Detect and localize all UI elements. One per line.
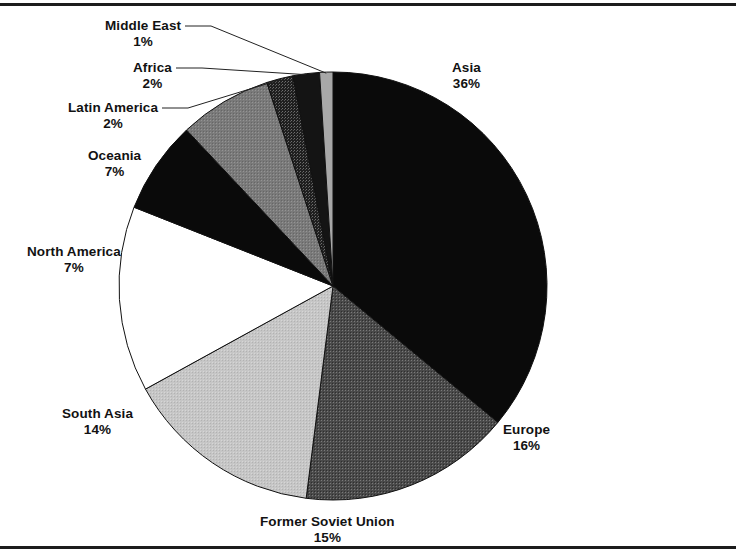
pie-label-percent: 1% [105,34,181,50]
pie-label-name: North America [27,244,121,260]
chart-figure: Asia36%Europe16%Former Soviet Union15%So… [0,0,736,559]
pie-label-name: Africa [133,60,172,76]
pie-label-percent: 7% [88,164,141,180]
pie-label-name: Latin America [68,100,158,116]
pie-label-south-asia: South Asia14% [62,406,133,438]
pie-label-percent: 14% [62,422,133,438]
pie-label-name: Former Soviet Union [260,514,395,530]
pie-label-percent: 36% [452,76,481,92]
pie-label-percent: 2% [68,116,158,132]
pie-label-name: Asia [452,60,481,76]
pie-chart-svg [0,0,736,559]
pie-label-name: Middle East [105,18,181,34]
pie-label-name: Europe [503,422,550,438]
pie-label-latin-america: Latin America2% [68,100,158,132]
leader-line-africa [176,68,306,75]
pie-label-north-america: North America7% [27,244,121,276]
pie-label-name: Oceania [88,148,141,164]
leader-line-middle-east [185,26,326,73]
pie-label-name: South Asia [62,406,133,422]
pie-label-middle-east: Middle East1% [105,18,181,50]
pie-label-europe: Europe16% [503,422,550,454]
pie-label-percent: 16% [503,438,550,454]
pie-label-percent: 7% [27,260,121,276]
pie-label-percent: 15% [260,530,395,546]
pie-slices-group [119,72,547,500]
pie-label-africa: Africa2% [133,60,172,92]
pie-label-oceania: Oceania7% [88,148,141,180]
pie-label-asia: Asia36% [452,60,481,92]
pie-chart [0,0,736,559]
pie-label-former-soviet-union: Former Soviet Union15% [260,514,395,546]
pie-label-percent: 2% [133,76,172,92]
